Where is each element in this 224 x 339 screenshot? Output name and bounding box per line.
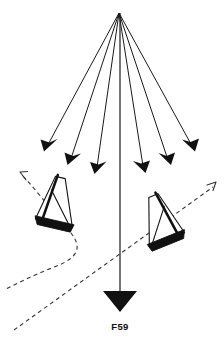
- figure-canvas: F59: [0, 0, 224, 339]
- figure-container: F59: [0, 0, 224, 339]
- figure-background: [0, 0, 224, 339]
- figure-caption: F59: [111, 321, 128, 332]
